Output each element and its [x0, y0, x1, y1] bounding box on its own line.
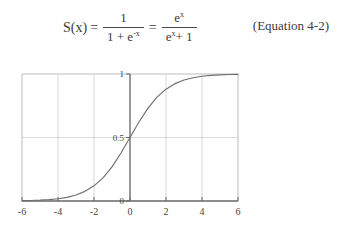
- x-tick-label-0: 0: [128, 206, 133, 217]
- equation-row: S(x) = 1 1 + e-x = ex ex+ 1 (Equation 4-…: [0, 0, 337, 56]
- x-tick-label-4: 4: [200, 206, 205, 217]
- equation-number-label: (Equation 4-2): [253, 18, 329, 34]
- sigmoid-equation: S(x) = 1 1 + e-x = ex ex+ 1: [63, 10, 199, 46]
- fraction-one-denominator-exponent: -x: [133, 29, 140, 38]
- fraction-two-numerator: ex: [170, 10, 188, 27]
- fraction-one-numerator: 1: [116, 10, 131, 27]
- x-tick-label--2: -2: [90, 206, 98, 217]
- y-tick-label-0_5: 0.5: [113, 133, 125, 143]
- fraction-two-denominator: ex+ 1: [162, 28, 197, 45]
- x-axis-tick-labels-group: -6-4-20246: [18, 206, 241, 217]
- y-tick-label-0: 0: [120, 196, 125, 206]
- fraction-one: 1 1 + e-x: [103, 10, 144, 46]
- sigmoid-plot-figure: -6-4-20246 00.51: [0, 56, 337, 239]
- fraction-one-denominator: 1 + e-x: [103, 28, 144, 45]
- x-tick-label-6: 6: [236, 206, 241, 217]
- x-tick-label-2: 2: [164, 206, 169, 217]
- fraction-two: ex ex+ 1: [162, 10, 197, 46]
- equals-sign-first: =: [90, 21, 98, 35]
- equation-left-hand-side: S(x): [63, 21, 87, 35]
- fraction-two-denominator-tail: + 1: [176, 29, 193, 44]
- y-tick-label-1: 1: [120, 69, 125, 79]
- sigmoid-plot-svg: -6-4-20246 00.51: [0, 56, 337, 239]
- x-tick-label--6: -6: [18, 206, 26, 217]
- fraction-one-denominator-base: 1 + e: [107, 29, 133, 44]
- x-tick-label--4: -4: [54, 206, 62, 217]
- y-axis-tick-labels-group: 00.51: [113, 69, 125, 206]
- fraction-two-numerator-exponent: x: [180, 10, 184, 19]
- equals-sign-second: =: [149, 21, 157, 35]
